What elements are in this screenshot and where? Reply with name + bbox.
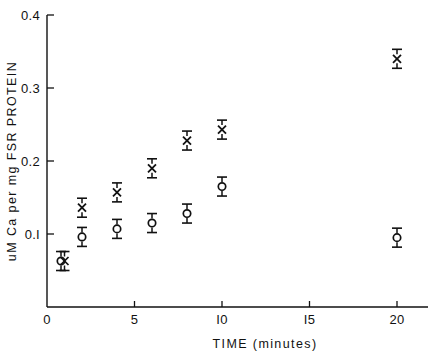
data-point-marker xyxy=(77,198,87,217)
x-tick-label: I5 xyxy=(304,312,315,327)
o-symbol xyxy=(113,225,120,232)
chart-figure: 05I0I5200.I0.20.30.4 TIME (minutes)uM Ca… xyxy=(0,0,446,359)
data-point-marker xyxy=(112,183,122,202)
data-point-marker xyxy=(392,49,402,68)
x-tick-label: I0 xyxy=(216,312,227,327)
y-tick-label: 0.3 xyxy=(21,81,40,96)
data-point-marker xyxy=(392,228,402,247)
o-symbol xyxy=(78,233,85,240)
data-point-marker xyxy=(112,219,122,238)
y-tick-label: 0.4 xyxy=(21,8,40,23)
scatter-plot-canvas: 05I0I5200.I0.20.30.4 TIME (minutes)uM Ca… xyxy=(0,0,446,359)
o-symbol xyxy=(183,210,190,217)
axes-group xyxy=(47,15,428,307)
data-point-marker xyxy=(77,227,87,246)
o-symbol xyxy=(218,183,225,190)
axis-ticks-group xyxy=(47,15,397,307)
o-symbol xyxy=(393,234,400,241)
y-axis-title: uM Ca per mg FSR PROTEIN xyxy=(5,61,19,261)
data-point-marker xyxy=(182,131,192,150)
y-tick-label: 0.I xyxy=(25,227,40,242)
data-point-marker xyxy=(217,177,227,196)
o-symbol xyxy=(148,219,155,226)
x-axis-title: TIME (minutes) xyxy=(212,337,317,351)
x-tick-label: 20 xyxy=(389,312,404,327)
data-point-marker xyxy=(182,204,192,223)
x-tick-label: 5 xyxy=(131,312,139,327)
data-point-marker xyxy=(147,159,157,178)
data-point-marker xyxy=(147,214,157,233)
x-tick-label: 0 xyxy=(43,312,51,327)
axis-tick-labels-group: 05I0I5200.I0.20.30.4 xyxy=(21,8,405,327)
y-tick-label: 0.2 xyxy=(21,154,40,169)
data-point-marker xyxy=(217,120,227,139)
data-markers-group xyxy=(56,49,402,270)
